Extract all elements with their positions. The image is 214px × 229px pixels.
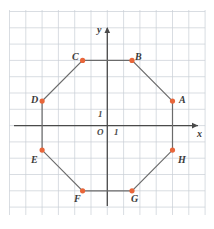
vertex-label-a: A — [179, 95, 186, 105]
vertex-label-e: E — [31, 155, 38, 165]
x-axis-label: x — [197, 129, 202, 139]
vertex-label-b: B — [135, 52, 142, 62]
vertex-point-a — [170, 99, 175, 104]
vertex-label-f: F — [74, 194, 81, 204]
octagon-plot-svg — [0, 0, 214, 229]
vertex-label-h: H — [178, 155, 186, 165]
origin-label: O — [97, 128, 104, 137]
vertex-point-d — [40, 99, 45, 104]
coordinate-plane-figure: A B C D E F G H y x O 1 1 — [0, 0, 214, 229]
y-axis-label: y — [97, 25, 101, 35]
vertex-label-d: D — [31, 95, 38, 105]
y-unit-label: 1 — [98, 110, 103, 119]
x-unit-label: 1 — [114, 128, 119, 137]
vertex-label-g: G — [131, 194, 138, 204]
vertex-point-c — [80, 58, 85, 63]
vertex-point-e — [40, 148, 45, 153]
vertex-point-b — [129, 58, 134, 63]
vertex-point-h — [170, 148, 175, 153]
vertex-label-c: C — [72, 52, 79, 62]
